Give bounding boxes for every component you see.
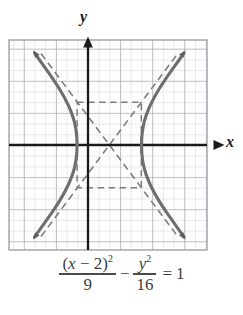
equals-sign: = [162,265,172,282]
x-axis-label: x [226,133,234,151]
y-axis-label: y [80,8,87,26]
constant-2: 2 [94,254,103,273]
figure-canvas: y x (x − 2)2 9 − y2 16 = 1 [0,0,243,315]
variable-x: x [68,254,76,273]
left-denominator: 9 [80,275,95,293]
right-hand-side: 1 [176,265,185,282]
right-denominator: 16 [133,275,156,293]
exponent-2-right: 2 [146,253,151,264]
exponent-2-left: 2 [108,253,113,264]
subtraction-operator: − [120,265,130,282]
hyperbola-equation: (x − 2)2 9 − y2 16 = 1 [58,255,184,293]
right-fraction: y2 16 [133,255,156,293]
left-numerator: (x − 2)2 [59,255,115,273]
minus-sign-inner: − [76,254,94,273]
right-numerator: y2 [136,255,155,273]
equation-caption: (x − 2)2 9 − y2 16 = 1 [0,255,243,293]
left-fraction: (x − 2)2 9 [59,255,115,293]
